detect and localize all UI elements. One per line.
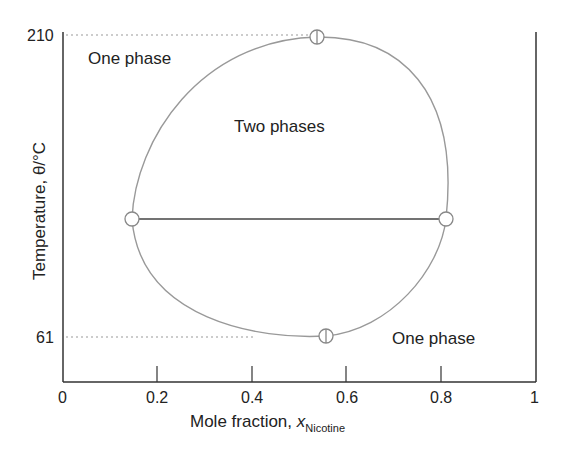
x-axis-label: Mole fraction, xNicotine xyxy=(190,412,345,434)
tie-line-left-point xyxy=(125,212,139,226)
x-tick-0: 0 xyxy=(58,390,67,406)
lower-critical-point xyxy=(319,329,333,343)
y-tick-210: 210 xyxy=(27,28,54,44)
upper-critical-point xyxy=(310,30,324,44)
x-tick-0.6: 0.6 xyxy=(336,390,358,406)
region-label-one-phase-top: One phase xyxy=(88,50,171,67)
region-label-two-phases: Two phases xyxy=(234,118,325,135)
x-tick-0.4: 0.4 xyxy=(241,390,263,406)
y-tick-61: 61 xyxy=(36,330,54,346)
x-axis-label-subscript: Nicotine xyxy=(305,422,345,434)
x-axis-label-text: Mole fraction, xyxy=(190,412,297,431)
tie-line-right-point xyxy=(439,212,453,226)
phase-boundary-curve xyxy=(132,37,448,336)
x-ticks xyxy=(157,366,441,382)
phase-diagram xyxy=(0,0,571,454)
region-label-one-phase-bottom: One phase xyxy=(392,330,475,347)
y-axis-label: Temperature, θ/°C xyxy=(30,142,50,280)
x-tick-1: 1 xyxy=(530,390,539,406)
x-axis-label-variable: x xyxy=(297,412,306,431)
x-tick-0.2: 0.2 xyxy=(146,390,168,406)
x-tick-0.8: 0.8 xyxy=(430,390,452,406)
